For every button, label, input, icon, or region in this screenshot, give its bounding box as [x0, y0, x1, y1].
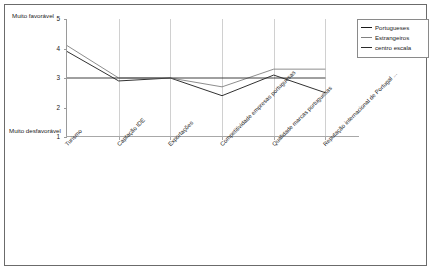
figure-frame: Muito favorável Muito desfavorável 12345…	[4, 4, 427, 266]
plot-area: 12345	[67, 19, 359, 137]
legend-label: Estrangeiros	[375, 34, 409, 41]
legend-line-swatch	[361, 37, 372, 38]
legend-line-swatch	[361, 47, 372, 48]
legend-item: Estrangeiros	[361, 33, 425, 42]
legend-label: centro escala	[375, 44, 411, 51]
y-tick-label: 2	[48, 104, 60, 111]
legend-item: Portugueses	[361, 23, 425, 32]
legend-label: Portugueses	[375, 24, 409, 31]
y-tick-label: 5	[48, 15, 60, 22]
series-lines	[67, 19, 359, 137]
y-tick-mark	[64, 137, 67, 138]
chart-legend: PortuguesesEstrangeiroscentro escala	[357, 19, 429, 58]
y-tick-label: 3	[48, 74, 60, 81]
legend-line-swatch	[361, 27, 372, 28]
y-tick-label: 1	[48, 133, 60, 140]
chart-screenshot: Muito favorável Muito desfavorável 12345…	[0, 0, 432, 273]
y-tick-label: 4	[48, 45, 60, 52]
legend-item: centro escala	[361, 43, 425, 52]
